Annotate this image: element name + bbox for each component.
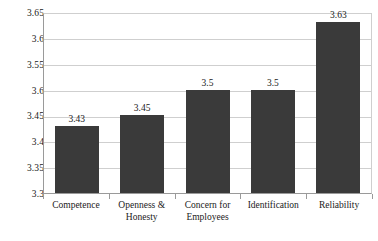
y-axis-tick-label: 3.3 (8, 189, 44, 199)
bar-slot: 3.5 (240, 14, 305, 193)
bar-slot: 3.43 (44, 14, 109, 193)
y-axis-tick-label: 3.6 (8, 34, 44, 44)
plot-area: 3.43 3.45 3.5 3.5 3.63 (43, 13, 372, 194)
bar-value-label: 3.63 (306, 10, 371, 20)
bar-chart: 3.65 3.6 3.55 3.6 3.45 3.4 3.35 3.3 3.43… (0, 0, 378, 241)
x-axis-tick (109, 194, 110, 199)
x-axis-label-line: Honesty (110, 212, 174, 224)
x-axis-label-line: Openness & (110, 200, 174, 212)
y-axis-tick-label: 3.4 (8, 137, 44, 147)
y-axis-tick-label: 3.65 (8, 8, 44, 18)
bar-concern-for-employees (186, 90, 230, 193)
x-axis-label-line: Reliability (307, 200, 371, 212)
x-axis-tick (240, 194, 241, 199)
x-axis-category-labels: Competence Openness & Honesty Concern fo… (43, 200, 372, 223)
y-axis-tick-label: 3.6 (8, 86, 44, 96)
y-axis-tick-label: 3.45 (8, 111, 44, 121)
x-axis-label-line: Employees (176, 212, 240, 224)
bar-slot: 3.45 (109, 14, 174, 193)
bar-slot: 3.63 (306, 14, 371, 193)
bar-competence (55, 126, 99, 193)
x-axis-tick (306, 194, 307, 199)
bar-openness-honesty (120, 115, 164, 193)
x-axis-label-identification: Identification (240, 200, 306, 223)
bar-identification (251, 90, 295, 193)
x-axis-tick (372, 194, 373, 199)
x-axis-tick (43, 194, 44, 199)
bar-value-label: 3.5 (240, 78, 305, 88)
bar-slot: 3.5 (175, 14, 240, 193)
bar-value-label: 3.5 (175, 78, 240, 88)
x-axis-label-openness-honesty: Openness & Honesty (109, 200, 175, 223)
y-axis-tick-label: 3.35 (8, 163, 44, 173)
x-axis-label-reliability: Reliability (306, 200, 372, 223)
bar-value-label: 3.45 (109, 103, 174, 113)
y-axis-tick-label: 3.55 (8, 60, 44, 70)
bar-value-label: 3.43 (44, 114, 109, 124)
x-axis-label-line: Identification (241, 200, 305, 212)
x-axis-label-line: Competence (44, 200, 108, 212)
x-axis-tick (175, 194, 176, 199)
x-axis-label-concern-for-employees: Concern for Employees (175, 200, 241, 223)
x-axis-label-line: Concern for (176, 200, 240, 212)
bar-series: 3.43 3.45 3.5 3.5 3.63 (44, 14, 371, 193)
bar-reliability (316, 22, 360, 193)
x-axis-label-competence: Competence (43, 200, 109, 223)
